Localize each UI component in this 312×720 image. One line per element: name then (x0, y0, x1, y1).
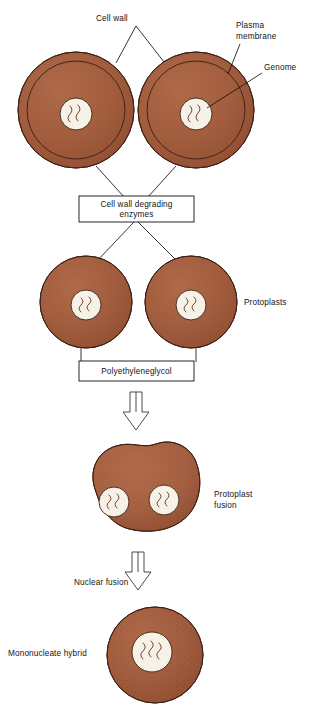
label-plasma-membrane-line2: membrane (236, 32, 277, 41)
nucleus-left (60, 98, 92, 130)
arrow-fusion-to-hybrid (125, 552, 151, 590)
protoplast-right (145, 256, 237, 348)
stage-fusion-product: Protoplast fusion (93, 442, 253, 531)
label-plasma-membrane-line1: Plasma (236, 21, 264, 30)
nucleus-fusion-left (99, 487, 129, 517)
leaders-enzyme-box-to-protoplasts (96, 222, 178, 262)
protoplast-left (40, 256, 132, 348)
stage-intact-cells: Cell wall Plasma membrane Genome (18, 14, 297, 168)
intact-cell-right (138, 52, 254, 168)
enzymes-box-line1: Cell wall degrading (100, 200, 172, 209)
label-cell-wall: Cell wall (96, 14, 128, 23)
diagram-canvas: Cell wall Plasma membrane Genome Cell wa… (0, 0, 312, 720)
label-protoplast-fusion-line1: Protoplast (214, 490, 253, 499)
label-protoplast-fusion-line2: fusion (214, 501, 237, 510)
cell-wall-leader (116, 26, 164, 63)
arrow-peg-to-fusion (123, 392, 149, 430)
protoplast-fusion-diagram: Cell wall Plasma membrane Genome Cell wa… (0, 0, 312, 720)
enzymes-box-line2: enzymes (120, 210, 154, 219)
label-protoplasts: Protoplasts (244, 298, 287, 307)
stage-hybrid: Mononucleate hybrid (8, 607, 203, 703)
nucleus-fusion-right (149, 485, 179, 515)
label-mononucleate-hybrid: Mononucleate hybrid (8, 649, 87, 658)
process-box-peg: Polyethyleneglycol (79, 361, 194, 381)
leaders-protoplasts-to-peg-box (81, 348, 196, 362)
label-genome: Genome (264, 63, 297, 72)
nucleus-right (180, 98, 212, 130)
nucleus-protoplast-left (71, 290, 101, 320)
label-nuclear-fusion: Nuclear fusion (74, 578, 129, 587)
stage-protoplasts: Protoplasts (40, 256, 287, 348)
nucleus-hybrid (132, 632, 172, 672)
process-box-enzymes: Cell wall degrading enzymes (79, 196, 194, 222)
nucleus-protoplast-right (176, 290, 206, 320)
intact-cell-left (18, 52, 134, 168)
peg-box-line1: Polyethyleneglycol (101, 367, 172, 376)
